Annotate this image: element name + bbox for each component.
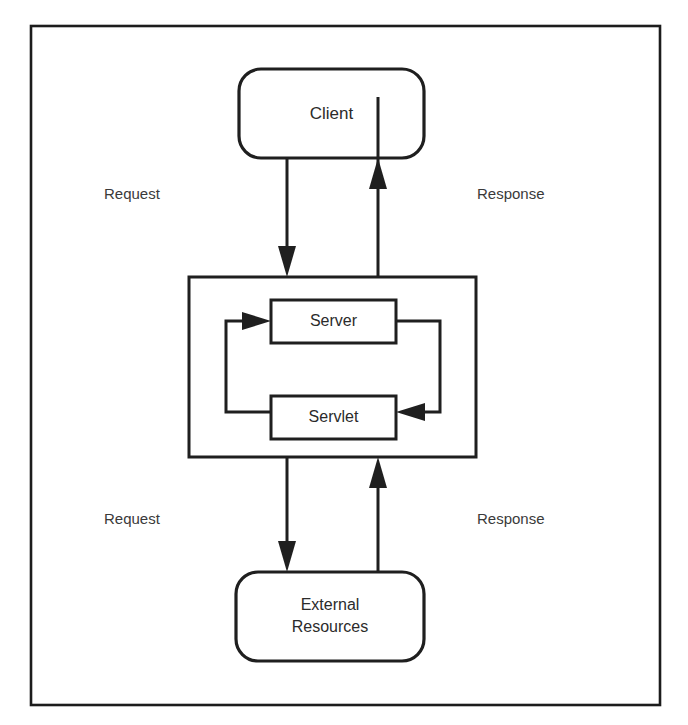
node-servlet-label: Servlet: [309, 408, 359, 425]
node-external-resources-label-line1: External: [301, 596, 360, 613]
edge-label-client-request: Request: [104, 185, 161, 202]
node-external-resources-label-line2: Resources: [292, 618, 368, 635]
edge-client-to-server-arrowhead: [278, 246, 296, 277]
edge-external-to-server-arrowhead: [369, 457, 387, 488]
edge-label-external-request: Request: [104, 510, 161, 527]
edge-server-to-external-arrowhead: [278, 541, 296, 572]
edge-label-external-response: Response: [477, 510, 545, 527]
node-server-label: Server: [310, 312, 358, 329]
diagram-canvas: Client Request Response Server Servlet: [0, 0, 688, 725]
node-external-resources[interactable]: [236, 572, 424, 661]
edge-server-to-servlet-arrowhead: [396, 403, 425, 421]
edge-servlet-to-server-line: [226, 321, 271, 412]
diagram-figure: Client Request Response Server Servlet: [0, 0, 688, 725]
edge-servlet-to-server-arrowhead: [242, 312, 271, 330]
edge-server-to-servlet-line: [396, 321, 440, 412]
node-client-label: Client: [310, 104, 354, 123]
edge-label-client-response: Response: [477, 185, 545, 202]
edge-server-to-client-arrowhead: [369, 158, 387, 189]
